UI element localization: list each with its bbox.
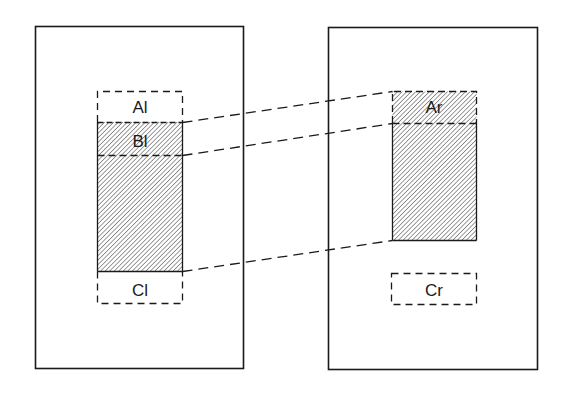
label-cl: Cl [132,281,148,300]
region-cl: Cl [98,272,183,304]
connectors [183,92,393,272]
left-panel: Al Bl Cl [36,27,244,369]
connector-bl-top-to-ar-top [183,92,393,123]
diagram-canvas: Al Bl Cl [0,0,564,393]
label-cr: Cr [425,281,443,300]
region-bl-hatched: Bl [98,122,183,272]
region-cr: Cr [392,274,477,305]
label-al: Al [132,98,147,117]
right-panel: Ar Cr [329,28,538,370]
region-ar: Ar [393,92,477,241]
region-al: Al [98,92,183,123]
connector-bl-bottom-to-ar-bottom [183,124,393,156]
connector-body-bottom [183,241,393,272]
label-bl: Bl [132,132,147,151]
label-ar: Ar [426,98,443,117]
